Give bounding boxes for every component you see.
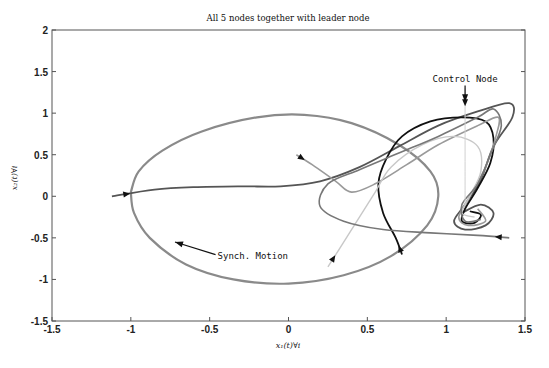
annotation-arrowhead — [175, 242, 184, 248]
x-tick-label: 1.5 — [518, 324, 532, 335]
y-tick-label: 2 — [42, 25, 48, 36]
arrowhead-node-1 — [123, 192, 130, 198]
arrowhead-node-4 — [329, 255, 335, 263]
y-tick-label: 1.5 — [34, 67, 48, 78]
x-tick-label: 0 — [286, 324, 292, 335]
x-axis: -1.5-1-0.500.511.5 — [43, 317, 532, 335]
chart-title: All 5 nodes together with leader node — [206, 13, 370, 23]
y-tick-label: 1 — [42, 108, 48, 119]
y-tick-label: 0 — [42, 191, 48, 202]
x-tick-label: 0.5 — [360, 324, 374, 335]
x-tick-label: 1 — [443, 324, 449, 335]
figure: All 5 nodes together with leader node -1… — [0, 0, 549, 368]
x-axis-label: x₁(t)∀i — [276, 341, 301, 350]
series-node-1 — [112, 103, 514, 230]
annotation-text: Control Node — [433, 74, 498, 84]
y-tick-label: -0.5 — [31, 233, 49, 244]
annotations: Control NodeSynch. Motion — [175, 74, 498, 261]
annotation-text: Synch. Motion — [218, 251, 288, 261]
y-tick-label: -1 — [39, 274, 48, 285]
plot-area — [112, 88, 514, 284]
x-tick-label: -1 — [126, 324, 135, 335]
arrowhead-node-5 — [495, 234, 502, 240]
x-tick-label: -0.5 — [201, 324, 219, 335]
y-tick-label: 0.5 — [34, 150, 48, 161]
y-axis-label: x₂(t)∀i — [10, 165, 19, 190]
y-tick-label: -1.5 — [31, 316, 49, 327]
y-axis: -1.5-1-0.500.511.52 — [31, 25, 525, 327]
